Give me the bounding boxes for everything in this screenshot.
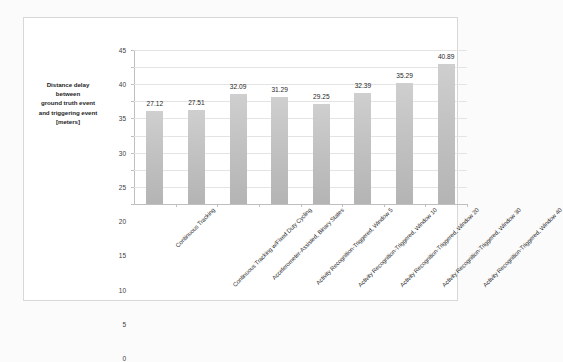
y-axis-tick-mark: 45	[131, 50, 134, 51]
y-axis-tick-label: 25	[119, 183, 126, 190]
bar-value-label: 40.89	[438, 53, 455, 60]
bar[interactable]	[230, 94, 247, 204]
bar[interactable]	[438, 64, 455, 204]
chart-frame: Distance delay between ground truth even…	[23, 17, 458, 301]
bar-value-label: 29.25	[313, 93, 330, 100]
bar[interactable]	[354, 93, 371, 204]
bar-value-label: 27.51	[188, 99, 205, 106]
bar-value-label: 27.12	[147, 100, 164, 107]
y-axis-tick-label: 0	[122, 355, 126, 362]
gridline	[134, 67, 467, 68]
bar-value-label: 31.29	[271, 86, 288, 93]
y-axis-tick-label: 40	[119, 81, 126, 88]
gridline	[134, 153, 467, 154]
gridline	[134, 84, 467, 85]
y-axis-tick-mark: 35	[131, 84, 134, 85]
x-axis-category-label: Activity Recognition-Triggered, Window 2…	[399, 207, 480, 288]
y-axis-title: Distance delay between ground truth even…	[24, 80, 112, 126]
x-axis-category-label: Activity Recognition-Triggered, Window 5	[315, 207, 394, 286]
bar[interactable]	[396, 83, 413, 204]
gridline	[134, 136, 467, 137]
bar-value-label: 35.29	[396, 72, 413, 79]
y-axis-tick-label: 5	[122, 320, 126, 327]
bar-value-label: 32.09	[230, 83, 247, 90]
y-axis-tick-mark: 30	[131, 101, 134, 102]
y-axis-tick-mark: 10	[131, 170, 134, 171]
x-axis-category-label: Continuous Tracking	[174, 207, 216, 249]
gridline	[134, 170, 467, 171]
gridline	[134, 118, 467, 119]
bar[interactable]	[271, 97, 288, 204]
gridline	[134, 187, 467, 188]
y-axis-tick-mark: 20	[131, 136, 134, 137]
y-axis-title-line-4: and triggering event	[24, 108, 112, 117]
y-axis-tick-label: 15	[119, 252, 126, 259]
y-axis-tick-mark: 25	[131, 118, 134, 119]
x-axis-category-label: Activity Recognition-Triggered, Window 3…	[440, 207, 521, 288]
y-axis-title-line-1: Distance delay	[24, 80, 112, 89]
y-axis-tick-mark: 0	[131, 204, 134, 205]
y-axis-tick-label: 10	[119, 286, 126, 293]
y-axis-tick-label: 30	[119, 149, 126, 156]
bar[interactable]	[188, 110, 205, 204]
gridline	[134, 50, 467, 51]
y-axis-tick-mark: 5	[131, 187, 134, 188]
y-axis-tick-label: 45	[119, 47, 126, 54]
x-axis-category-label: Activity Recognition-Triggered, Window 4…	[482, 207, 563, 288]
plot-area: 05101520253035404527.1227.5132.0931.2929…	[134, 50, 467, 204]
bar[interactable]	[146, 111, 163, 204]
x-axis-tick-mark	[467, 204, 468, 207]
x-axis-category-label: Activity Recognition-Triggered, Window 1…	[357, 207, 438, 288]
x-axis-category-labels: Continuous TrackingContinuous Tracking w…	[134, 207, 467, 317]
bar[interactable]	[313, 104, 330, 204]
y-axis-tick-label: 20	[119, 218, 126, 225]
y-axis-title-line-3: ground truth event	[24, 98, 112, 107]
y-axis-tick-mark: 15	[131, 153, 134, 154]
y-axis-tick-mark: 40	[131, 67, 134, 68]
y-axis-title-line-5: [meters]	[24, 117, 112, 126]
bar-value-label: 32.39	[355, 82, 372, 89]
y-axis-title-line-2: between	[24, 89, 112, 98]
y-axis-tick-label: 35	[119, 115, 126, 122]
gridline	[134, 101, 467, 102]
